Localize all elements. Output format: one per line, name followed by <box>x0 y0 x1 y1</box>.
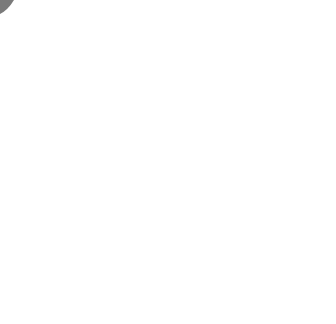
corner-decoration <box>0 0 14 14</box>
frame <box>20 21 152 153</box>
diagram-canvas <box>0 0 336 324</box>
outer-frame <box>20 21 152 153</box>
